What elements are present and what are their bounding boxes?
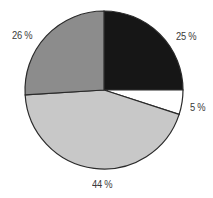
label-5-percent: 5 % [190, 101, 205, 113]
pie-slice-26-percent [25, 11, 104, 95]
label-25-percent: 25 % [176, 30, 196, 42]
pie-slice-25-percent [104, 11, 183, 90]
label-26-percent: 26 % [12, 29, 32, 41]
label-44-percent: 44 % [92, 178, 112, 190]
